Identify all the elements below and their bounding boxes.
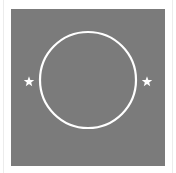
- circle-outline: [40, 32, 136, 128]
- emblem-graphic: [0, 0, 176, 173]
- star-icon: [24, 76, 34, 86]
- right-star-shape: [142, 76, 152, 86]
- left-star-shape: [24, 76, 34, 86]
- star-icon: [142, 76, 152, 86]
